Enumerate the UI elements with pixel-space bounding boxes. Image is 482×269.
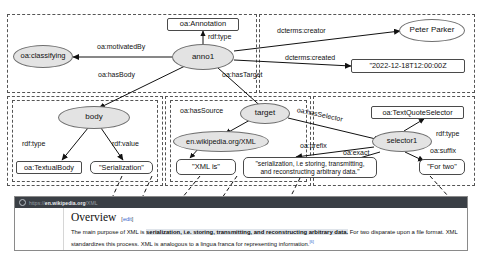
- edge-label-rdf-type-annotation: rdf:type: [208, 33, 231, 40]
- node-label: oa:classifying: [20, 52, 65, 60]
- url-text: https://en.wikipedia.org/XML: [29, 200, 98, 206]
- node-label: Peter Parker: [410, 26, 455, 35]
- node-oa-textualbody[interactable]: oa:TextualBody: [16, 161, 82, 174]
- browser-url-bar[interactable]: https://en.wikipedia.org/XML: [15, 197, 467, 208]
- node-suffix-literal[interactable]: "For two": [419, 159, 465, 175]
- edge-label-text: rdf:value: [112, 140, 139, 147]
- node-prefix-literal[interactable]: "XML is": [176, 159, 236, 175]
- node-label: oa:TextQuoteSelector: [382, 109, 452, 117]
- bracket-close: ]: [132, 216, 134, 222]
- edge-label-oa-hastarget: oa:hasTarget: [222, 71, 262, 78]
- diagram-canvas: oa:Annotation anno1 oa:classifying Peter…: [0, 0, 482, 269]
- edit-link[interactable]: [edit]: [121, 216, 133, 222]
- edge-label-text: rdf:type: [22, 140, 45, 147]
- page-body: Overview [edit] The main purpose of XML …: [15, 208, 467, 251]
- node-oa-classifying[interactable]: oa:classifying: [13, 45, 73, 68]
- overview-paragraph: The main purpose of XML is serialization…: [71, 227, 461, 250]
- node-created-literal[interactable]: "2022-12-18T12:00:00Z: [351, 59, 465, 73]
- edge-label-text: oa:suffix: [430, 147, 456, 154]
- edge-label-text: oa:motivatedBy: [97, 43, 145, 50]
- lock-icon: [19, 199, 26, 206]
- url-scheme: https://: [29, 200, 45, 206]
- edge-label-oa-suffix: oa:suffix: [430, 147, 456, 154]
- edge-label-text: oa:hasSource: [180, 107, 223, 114]
- edge-label-oa-hasbody: oa:hasBody: [98, 71, 135, 78]
- edge-label-text: oa:hasTarget: [222, 71, 262, 78]
- node-label: body: [85, 113, 102, 122]
- node-anno1[interactable]: anno1: [172, 44, 234, 70]
- node-label-line2: and reconstructing arbitrary data.": [260, 168, 359, 175]
- node-label: target: [255, 109, 275, 118]
- page-left-rail: [15, 208, 64, 251]
- edge-label-rdf-type-body: rdf:type: [22, 140, 45, 147]
- edge-label-text: rdf:type: [436, 130, 459, 137]
- url-host: en.wikipedia.org: [45, 200, 86, 206]
- node-oa-textquoteselector[interactable]: oa:TextQuoteSelector: [371, 106, 464, 119]
- node-peter-parker[interactable]: Peter Parker: [399, 19, 465, 42]
- node-oa-annotation[interactable]: oa:Annotation: [167, 18, 239, 31]
- node-label: selector1: [387, 137, 417, 145]
- node-selector1[interactable]: selector1: [372, 131, 432, 152]
- node-source-uri[interactable]: en.wikipedia.org/XML: [173, 131, 269, 152]
- edge-label-text: oa:prefix: [300, 142, 327, 149]
- node-label: en.wikipedia.org/XML: [186, 138, 256, 146]
- edge-label-text: oa:exact: [343, 149, 369, 156]
- node-target[interactable]: target: [240, 103, 290, 124]
- node-label: oa:Annotation: [180, 20, 226, 28]
- edge-label-text: dcterms:created: [285, 54, 335, 61]
- node-serialization-literal[interactable]: "Serialization": [90, 161, 153, 174]
- edge-label-text: rdf:type: [208, 33, 231, 40]
- node-label: "Serialization": [99, 164, 144, 172]
- edge-label-text: dcterms:creator: [277, 27, 326, 34]
- edge-label-oa-prefix: oa:prefix: [300, 142, 327, 149]
- node-label: "For two": [427, 163, 457, 171]
- edge-label-oa-hassource: oa:hasSource: [180, 107, 223, 114]
- url-path: /XML: [86, 200, 98, 206]
- node-label-line1: "serialization, i.e storing, transmittin…: [256, 160, 365, 167]
- annotated-quote: serialization, i.e. storing, transmittin…: [146, 229, 348, 235]
- overview-heading: Overview: [71, 211, 116, 223]
- node-label: oa:TextualBody: [24, 164, 74, 172]
- node-exact-literal[interactable]: "serialization, i.e storing, transmittin…: [243, 157, 377, 178]
- edge-label-oa-motivatedby: oa:motivatedBy: [97, 43, 145, 50]
- node-label: "2022-12-18T12:00:00Z: [369, 62, 446, 70]
- citation-ref[interactable]: [6]: [309, 239, 313, 244]
- node-label: anno1: [192, 53, 214, 62]
- edge-label-dcterms-creator: dcterms:creator: [277, 27, 326, 34]
- edge-label-rdf-type-selector: rdf:type: [436, 130, 459, 137]
- node-label: "XML is": [192, 163, 220, 171]
- edge-label-rdf-value: rdf:value: [112, 140, 139, 147]
- section-heading-row: Overview [edit]: [71, 211, 461, 223]
- edge-label-oa-exact: oa:exact: [343, 149, 369, 156]
- node-body[interactable]: body: [58, 106, 130, 129]
- browser-window[interactable]: https://en.wikipedia.org/XML Overview [e…: [14, 196, 468, 251]
- paragraph-pre: The main purpose of XML is: [71, 229, 146, 235]
- edge-label-dcterms-created: dcterms:created: [285, 54, 335, 61]
- edge-label-text: oa:hasBody: [98, 71, 135, 78]
- page-content: Overview [edit] The main purpose of XML …: [64, 208, 467, 251]
- edit-label[interactable]: edit: [123, 216, 132, 222]
